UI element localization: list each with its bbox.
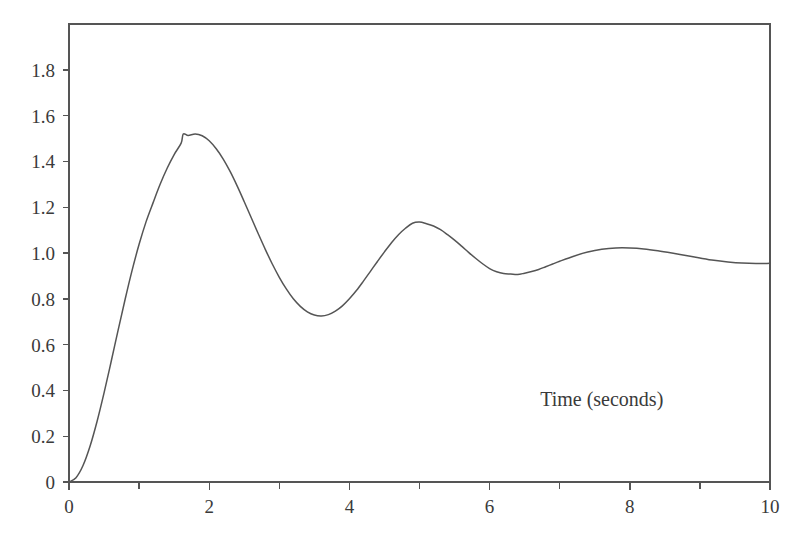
x-axis-title: Time (seconds) xyxy=(540,388,663,411)
y-tick-label: 1.6 xyxy=(31,106,55,127)
y-tick-label: 1.0 xyxy=(31,243,55,264)
x-tick-label: 10 xyxy=(761,496,780,517)
chart-page: 00.20.40.60.81.01.21.41.61.8 0246810 Tim… xyxy=(0,0,800,534)
y-tick-label: 0 xyxy=(46,472,56,493)
y-tick-label: 0.4 xyxy=(31,380,55,401)
x-tick-label: 2 xyxy=(204,496,214,517)
x-tick-label: 8 xyxy=(625,496,635,517)
y-tick-label: 1.4 xyxy=(31,151,55,172)
step-response-chart: 00.20.40.60.81.01.21.41.61.8 0246810 Tim… xyxy=(0,0,800,534)
x-tick-label: 6 xyxy=(485,496,495,517)
y-tick-label: 0.2 xyxy=(31,426,55,447)
y-tick-label: 0.6 xyxy=(31,335,55,356)
chart-background xyxy=(0,0,800,534)
y-tick-label: 1.2 xyxy=(31,197,55,218)
x-tick-label: 4 xyxy=(345,496,355,517)
y-tick-label: 0.8 xyxy=(31,289,55,310)
x-tick-label: 0 xyxy=(64,496,74,517)
y-tick-label: 1.8 xyxy=(31,60,55,81)
